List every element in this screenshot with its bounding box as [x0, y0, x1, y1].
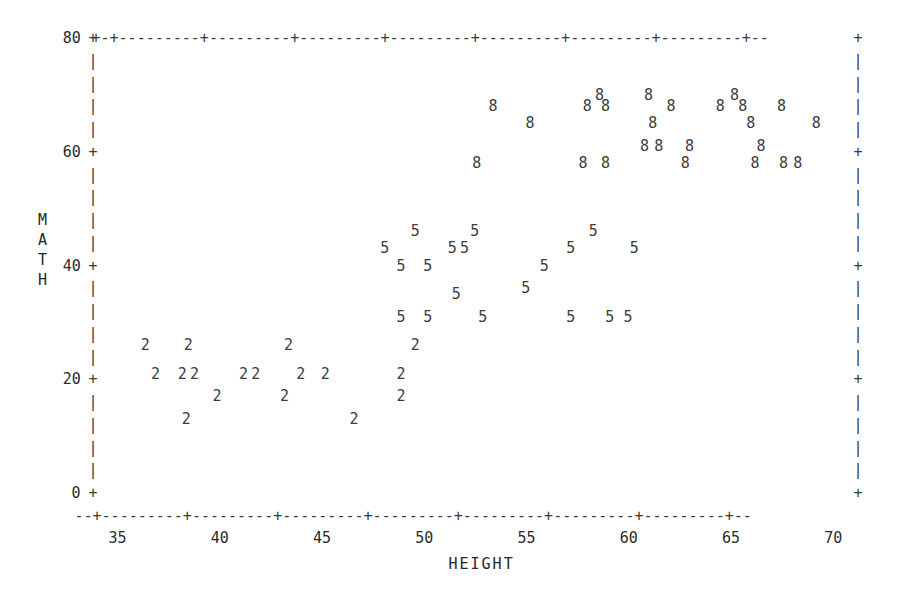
data-point-5: 5 [397, 310, 406, 325]
y-tick-label-40: 40 [63, 259, 81, 274]
data-point-2: 2 [397, 367, 406, 382]
data-point-8: 8 [685, 139, 694, 154]
y-axis-dash-right: | [854, 77, 863, 92]
y-axis-dash: | [89, 190, 98, 205]
data-point-2: 2 [141, 338, 150, 353]
y-axis-title-char-T: T [38, 253, 49, 268]
data-point-2: 2 [296, 367, 305, 382]
data-point-5: 5 [470, 224, 479, 239]
data-point-2: 2 [184, 338, 193, 353]
y-axis-dash-right: | [854, 350, 863, 365]
y-axis-dash: | [89, 327, 98, 342]
data-point-2: 2 [212, 389, 221, 404]
data-point-2: 2 [178, 367, 187, 382]
y-axis-dash: | [89, 99, 98, 114]
y-axis-dash-right: | [854, 395, 863, 410]
y-tick-label-0: 0 [71, 486, 80, 501]
y-axis-dash-right: | [854, 54, 863, 69]
data-point-2: 2 [411, 338, 420, 353]
data-point-5: 5 [624, 310, 633, 325]
data-point-8: 8 [601, 99, 610, 114]
data-point-5: 5 [540, 259, 549, 274]
y-axis-dash: | [89, 122, 98, 137]
data-point-8: 8 [681, 156, 690, 171]
data-point-8: 8 [738, 99, 747, 114]
y-axis-dash-right: | [854, 190, 863, 205]
data-point-2: 2 [239, 367, 248, 382]
data-point-8: 8 [779, 156, 788, 171]
data-point-8: 8 [525, 116, 534, 131]
y-axis-title-char-H: H [38, 273, 49, 288]
y-axis-dash: | [89, 304, 98, 319]
y-axis-dash-right: | [854, 304, 863, 319]
data-point-5: 5 [478, 310, 487, 325]
data-point-5: 5 [605, 310, 614, 325]
data-point-8: 8 [793, 156, 802, 171]
y-tick-right-20: + [854, 372, 863, 387]
y-axis-dash-right: | [854, 99, 863, 114]
data-point-8: 8 [757, 139, 766, 154]
data-point-8: 8 [583, 99, 592, 114]
y-axis-dash-right: | [854, 418, 863, 433]
y-tick-right-60: + [854, 145, 863, 160]
data-point-2: 2 [151, 367, 160, 382]
data-point-5: 5 [521, 281, 530, 296]
data-point-5: 5 [397, 259, 406, 274]
y-axis-dash: | [89, 168, 98, 183]
data-point-8: 8 [654, 139, 663, 154]
y-tick-label-20: 20 [63, 372, 81, 387]
data-point-8: 8 [750, 156, 759, 171]
y-axis-dash: | [89, 463, 98, 478]
y-axis-title-char-A: A [38, 233, 49, 248]
data-point-5: 5 [460, 241, 469, 256]
y-tick-left-0: + [89, 486, 98, 501]
data-point-8: 8 [716, 99, 725, 114]
data-point-2: 2 [350, 412, 359, 427]
y-tick-left-20: + [89, 372, 98, 387]
data-point-5: 5 [566, 241, 575, 256]
data-point-2: 2 [182, 412, 191, 427]
y-axis-dash-right: | [854, 441, 863, 456]
data-point-8: 8 [746, 116, 755, 131]
data-point-2: 2 [284, 338, 293, 353]
x-tick-label-40: 40 [211, 531, 229, 546]
bottom-axis-rule: --+---------+---------+---------+-------… [75, 509, 752, 524]
y-axis-dash: | [89, 236, 98, 251]
data-point-2: 2 [190, 367, 199, 382]
data-point-8: 8 [579, 156, 588, 171]
data-point-8: 8 [640, 139, 649, 154]
data-point-8: 8 [489, 99, 498, 114]
y-axis-dash: | [89, 350, 98, 365]
y-tick-left-60: + [89, 145, 98, 160]
y-axis-dash-right: | [854, 122, 863, 137]
y-axis-dash-right: | [854, 281, 863, 296]
ascii-scatter-plot: +-+---------+---------+---------+-------… [0, 0, 898, 604]
data-point-2: 2 [280, 389, 289, 404]
data-point-8: 8 [777, 99, 786, 114]
data-point-2: 2 [397, 389, 406, 404]
y-axis-dash: | [89, 77, 98, 92]
x-tick-label-55: 55 [518, 531, 536, 546]
data-point-8: 8 [812, 116, 821, 131]
data-point-8: 8 [472, 156, 481, 171]
y-axis-dash: | [89, 54, 98, 69]
x-tick-label-45: 45 [313, 531, 331, 546]
data-point-5: 5 [589, 224, 598, 239]
y-axis-dash: | [89, 213, 98, 228]
y-axis-dash: | [89, 418, 98, 433]
x-tick-label-65: 65 [722, 531, 740, 546]
y-axis-dash: | [89, 395, 98, 410]
y-axis-dash-right: | [854, 168, 863, 183]
x-tick-label-60: 60 [620, 531, 638, 546]
y-tick-right-40: + [854, 259, 863, 274]
data-point-5: 5 [423, 259, 432, 274]
data-point-2: 2 [251, 367, 260, 382]
y-axis-dash: | [89, 441, 98, 456]
y-tick-label-80: 80 [63, 31, 81, 46]
y-axis-dash-right: | [854, 463, 863, 478]
data-point-2: 2 [321, 367, 330, 382]
data-point-5: 5 [448, 241, 457, 256]
y-tick-right-80: + [854, 31, 863, 46]
y-tick-right-0: + [854, 486, 863, 501]
data-point-8: 8 [644, 88, 653, 103]
